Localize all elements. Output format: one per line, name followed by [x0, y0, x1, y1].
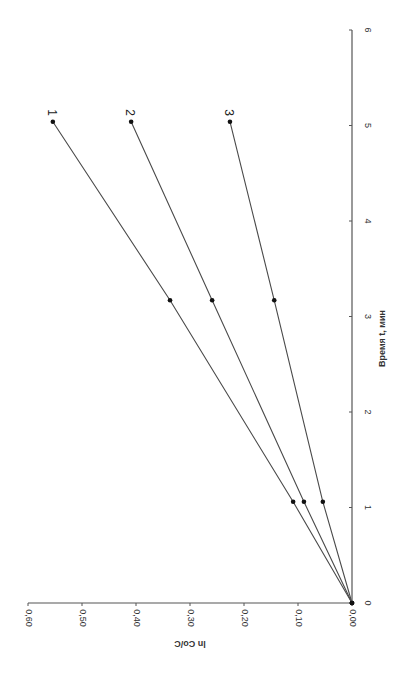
x-axis-title: Время t, мин	[377, 310, 387, 367]
series-line	[230, 122, 352, 603]
series-3: 3	[222, 109, 355, 605]
data-point-marker	[129, 119, 134, 124]
data-point-marker	[321, 499, 326, 504]
data-point-marker	[272, 298, 277, 303]
time-tick-label: 4	[363, 218, 373, 223]
value-tick-label: 0,50	[78, 609, 88, 627]
time-tick-label: 3	[363, 314, 373, 319]
data-point-marker	[210, 298, 215, 303]
data-point-marker	[168, 298, 173, 303]
value-axis: 0,000,100,200,300,400,500,60	[24, 603, 358, 627]
series-label: 2	[123, 109, 137, 116]
time-tick-label: 5	[363, 123, 373, 128]
series-label: 3	[222, 109, 236, 116]
series-label: 1	[45, 109, 59, 116]
time-tick-label: 6	[363, 27, 373, 32]
data-point-marker	[228, 119, 233, 124]
series-line	[131, 122, 352, 603]
data-point-marker	[350, 601, 355, 606]
value-tick-label: 0,40	[132, 609, 142, 627]
y-axis-title: ln Co/C	[174, 639, 206, 649]
series-lines: 123	[45, 109, 355, 605]
series-line	[53, 122, 352, 603]
time-tick-label: 1	[363, 505, 373, 510]
series-2: 2	[123, 109, 354, 605]
time-tick-label: 2	[363, 409, 373, 414]
series-1: 1	[45, 109, 355, 605]
value-tick-label: 0,00	[348, 609, 358, 627]
data-point-marker	[51, 119, 56, 124]
value-tick-label: 0,20	[240, 609, 250, 627]
line-chart: 0123456 0,000,100,200,300,400,500,60 123…	[0, 0, 397, 679]
value-tick-label: 0,30	[186, 609, 196, 627]
time-tick-label: 0	[363, 600, 373, 605]
value-tick-label: 0,60	[24, 609, 34, 627]
value-tick-label: 0,10	[294, 609, 304, 627]
time-axis: 0123456	[349, 27, 373, 605]
data-point-marker	[291, 499, 296, 504]
data-point-marker	[302, 499, 307, 504]
